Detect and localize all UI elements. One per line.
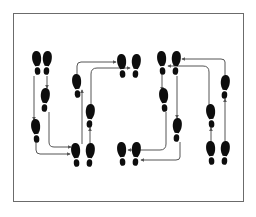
step-arrow-f4-to-f5	[36, 143, 70, 154]
right-footprint-icon	[42, 51, 53, 75]
right-footprint-icon	[220, 141, 231, 165]
left-footprint-icon	[72, 74, 83, 98]
right-footprint-icon	[40, 88, 51, 112]
step-arrow-f14-to-f16	[141, 142, 180, 160]
step-arrow-f3-to-f6	[49, 112, 71, 147]
left-footprint-icon	[71, 143, 82, 167]
left-footprint-icon	[206, 141, 217, 165]
right-footprint-icon	[131, 54, 142, 78]
left-footprint-icon	[157, 51, 168, 75]
footprint-diagram	[0, 0, 256, 217]
right-footprint-icon	[85, 104, 96, 128]
left-footprint-icon	[117, 142, 128, 166]
left-footprint-icon	[117, 54, 128, 78]
arrows-layer	[34, 59, 225, 160]
right-footprint-icon	[85, 143, 96, 167]
diagram-canvas	[0, 0, 256, 217]
step-arrow-f17-to-f12	[182, 59, 225, 75]
left-footprint-icon	[206, 104, 217, 128]
left-footprint-icon	[159, 88, 170, 112]
right-footprint-icon	[172, 118, 183, 142]
right-footprint-icon	[220, 75, 231, 99]
right-footprint-icon	[131, 142, 142, 166]
left-footprint-icon	[31, 119, 42, 143]
right-footprint-icon	[171, 51, 182, 75]
left-footprint-icon	[32, 51, 43, 75]
